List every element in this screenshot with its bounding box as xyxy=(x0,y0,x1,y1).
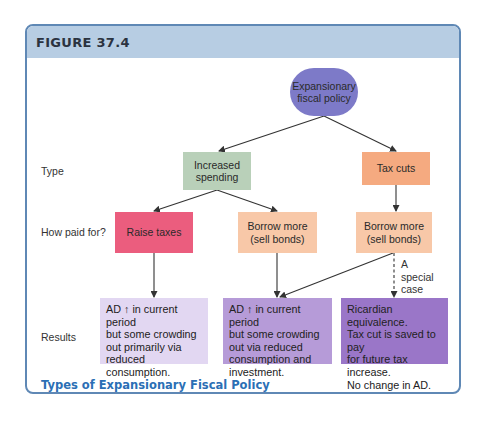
node-borrow-more-right: Borrow more (sell bonds) xyxy=(356,212,432,253)
node-borrowright-line2: (sell bonds) xyxy=(364,233,424,246)
result-ricardian-equivalence: Ricardian equivalence. Tax cut is saved … xyxy=(341,298,448,364)
node-raisetaxes-label: Raise taxes xyxy=(127,226,182,239)
node-root-line1: Expansionary xyxy=(292,80,356,93)
edge-borrowright-to-result2 xyxy=(280,253,393,297)
result-raise-taxes: AD ↑ in current period but some crowding… xyxy=(100,298,208,364)
node-borrowleft-line2: (sell bonds) xyxy=(247,233,307,246)
result-borrow-more: AD ↑ in current period but some crowding… xyxy=(223,298,332,364)
node-borrow-more-left: Borrow more (sell bonds) xyxy=(238,212,317,253)
node-taxcuts-label: Tax cuts xyxy=(377,162,416,175)
node-spending-line1: Increased xyxy=(194,159,240,172)
node-borrowleft-line1: Borrow more xyxy=(247,220,307,233)
node-expansionary-fiscal-policy: Expansionary fiscal policy xyxy=(290,68,358,116)
figure-caption: Types of Expansionary Fiscal Policy xyxy=(41,378,270,392)
edge-root-to-taxcuts xyxy=(324,116,396,151)
row-label-type: Type xyxy=(41,165,64,177)
edge-root-to-spending xyxy=(219,116,324,151)
row-label-how-paid: How paid for? xyxy=(41,226,106,238)
edge-spending-to-borrow xyxy=(217,190,277,211)
node-spending-line2: spending xyxy=(194,171,240,184)
node-root-line2: fiscal policy xyxy=(292,92,356,105)
node-increased-spending: Increased spending xyxy=(183,152,251,190)
node-raise-taxes: Raise taxes xyxy=(115,212,193,253)
special-case-note: A special case xyxy=(401,258,434,296)
node-borrowright-line1: Borrow more xyxy=(364,220,424,233)
node-tax-cuts: Tax cuts xyxy=(362,152,430,185)
edge-spending-to-raisetaxes xyxy=(154,190,217,211)
row-label-results: Results xyxy=(41,331,76,343)
